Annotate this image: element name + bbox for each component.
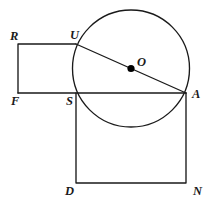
diagram-canvas (0, 0, 213, 206)
square-sand-edges (76, 93, 186, 183)
vertex-label-f: F (11, 95, 19, 108)
vertex-label-o: O (137, 56, 146, 69)
vertex-label-a: A (192, 88, 200, 101)
center-point-dot (127, 65, 134, 72)
rectangle-rfsu-edges (18, 44, 76, 93)
geometry-diagram: R U O F S A D N (0, 0, 213, 206)
vertex-label-u: U (70, 29, 79, 42)
vertex-label-d: D (65, 185, 74, 198)
vertex-label-r: R (10, 30, 18, 43)
vertex-label-s: S (66, 95, 73, 108)
vertex-label-n: N (193, 185, 202, 198)
